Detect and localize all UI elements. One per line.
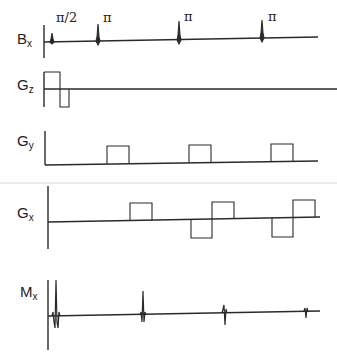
gz-row (44, 72, 337, 107)
mx-row (48, 280, 320, 350)
pulse-sequence-diagram (0, 0, 337, 364)
gy-row (45, 131, 318, 165)
bx-row (44, 20, 318, 58)
gx-row (48, 186, 320, 249)
